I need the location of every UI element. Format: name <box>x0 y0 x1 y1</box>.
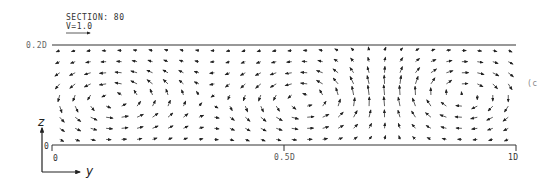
vector-field-plot <box>0 0 541 186</box>
